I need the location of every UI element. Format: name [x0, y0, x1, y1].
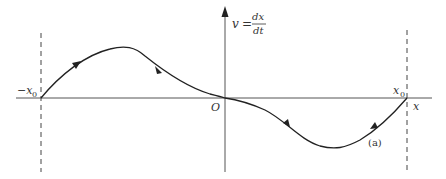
v-axis-label-lhs: v [232, 17, 239, 31]
direction-arrow-icon [155, 66, 162, 74]
left-bound-label: −x [17, 84, 33, 97]
right-bound-label: x [393, 84, 400, 97]
curve-label: (a) [368, 137, 382, 148]
v-axis-label-equals: = [242, 17, 252, 31]
left-bound-subscript: 0 [32, 90, 37, 99]
origin-label: O [211, 101, 220, 114]
v-axis-label-denominator: dt [253, 25, 264, 36]
v-axis-arrow-icon [222, 6, 229, 17]
direction-arrow-icon [283, 119, 290, 127]
phase-diagram: v = dx dt O −x 0 x 0 x (a) [0, 0, 446, 179]
v-axis-label-numerator: dx [252, 11, 264, 22]
right-bound-subscript: 0 [400, 90, 405, 99]
x-axis-label: x [413, 100, 420, 113]
direction-arrow-icon [370, 122, 378, 129]
